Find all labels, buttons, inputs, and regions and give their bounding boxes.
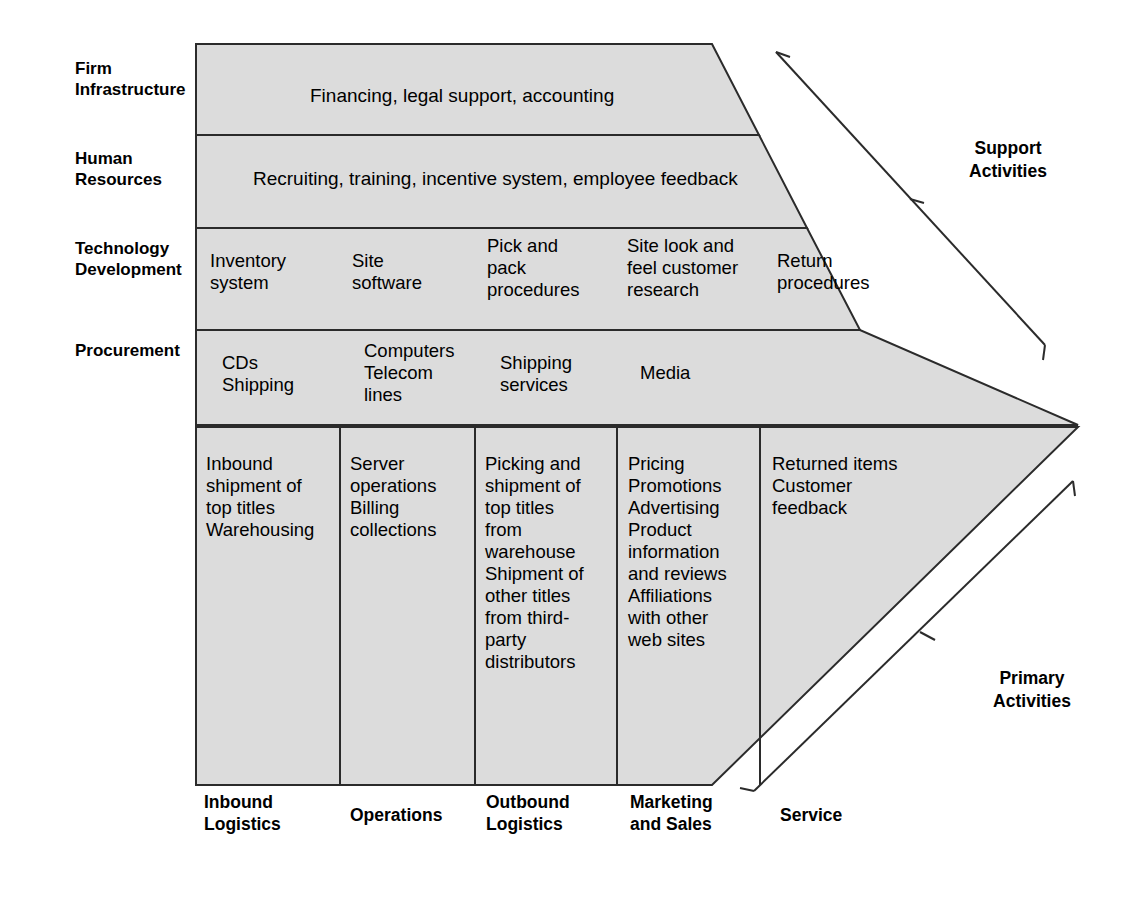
cell-firm-infrastructure-content: Financing, legal support, accounting xyxy=(310,85,614,107)
column-label-outbound-logistics: Outbound Logistics xyxy=(486,792,618,836)
column-label-marketing-and-sales: Marketing and Sales xyxy=(630,792,765,836)
primary-bracket-tick-mid xyxy=(920,632,935,640)
row-label-technology-development: Technology Development xyxy=(75,238,200,281)
cell-primary-operations: Server operations Billing collections xyxy=(350,453,475,541)
cell-primary-marketing-and-sales: Pricing Promotions Advertising Product i… xyxy=(628,453,758,651)
cell-primary-inbound-logistics: Inbound shipment of top titles Warehousi… xyxy=(206,453,338,541)
cell-human-resources-content: Recruiting, training, incentive system, … xyxy=(253,168,738,190)
cell-technology-inbound: Inventory system xyxy=(210,250,335,294)
cell-procurement-outbound: Shipping services xyxy=(500,352,625,396)
primary-bracket-tick-end xyxy=(740,788,754,791)
cell-primary-service: Returned items Customer feedback xyxy=(772,453,942,519)
row-label-human-resources: Human Resources xyxy=(75,148,195,191)
column-label-service: Service xyxy=(780,805,890,827)
side-label-support-activities: Support Activities xyxy=(928,137,1088,183)
value-chain-diagram: Firm Infrastructure Human Resources Tech… xyxy=(0,0,1131,914)
side-label-primary-activities: Primary Activities xyxy=(952,667,1112,713)
primary-bracket-tick-start xyxy=(1073,481,1075,496)
row-label-firm-infrastructure: Firm Infrastructure xyxy=(75,58,195,101)
cell-procurement-marketing: Media xyxy=(640,362,770,384)
cell-procurement-inbound: CDs Shipping xyxy=(222,352,342,396)
cell-technology-marketing: Site look and feel customer research xyxy=(627,235,777,301)
cell-primary-outbound-logistics: Picking and shipment of top titles from … xyxy=(485,453,615,673)
cell-procurement-operations: Computers Telecom lines xyxy=(364,340,489,406)
support-bracket-tick-end xyxy=(1043,345,1045,360)
row-label-procurement: Procurement xyxy=(75,340,205,361)
cell-technology-operations: Site software xyxy=(352,250,477,294)
column-label-operations: Operations xyxy=(350,805,475,827)
cell-technology-outbound: Pick and pack procedures xyxy=(487,235,612,301)
column-label-inbound-logistics: Inbound Logistics xyxy=(204,792,339,836)
cell-technology-service: Return procedures xyxy=(777,250,907,294)
